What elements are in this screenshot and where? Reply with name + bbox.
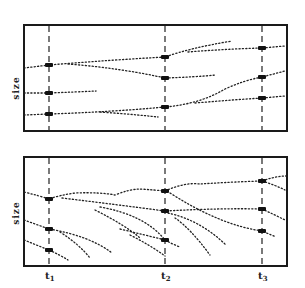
top-panel-frame: [24, 25, 287, 131]
top-trajectory: [195, 96, 285, 103]
bottom-ylabel: size: [11, 201, 21, 224]
bottom-trajectory: [60, 232, 90, 258]
top-marker-t3: [258, 46, 266, 50]
top-marker-t1: [45, 63, 53, 67]
bottom-marker-t3: [258, 207, 266, 211]
bottom-marker-t2: [161, 189, 169, 193]
top-trajectory: [68, 64, 216, 78]
bottom-trajectory: [175, 218, 210, 255]
bottom-marker-t3: [258, 179, 266, 183]
top-marker-t3: [258, 96, 266, 100]
bottom-marker-t1: [45, 197, 53, 201]
bottom-panel-frame: [24, 157, 287, 266]
top-marker-t2: [161, 105, 169, 109]
t3-label: t3: [258, 270, 268, 283]
top-trajectory: [24, 91, 96, 93]
top-ylabel: size: [11, 76, 21, 99]
t1-label: t1: [45, 270, 55, 283]
top-marker-t2: [161, 76, 169, 80]
top-marker-t1: [45, 112, 53, 116]
time-axis-labels: t1 t2 t3: [45, 270, 268, 283]
top-marker-t2: [161, 55, 169, 59]
top-trajectory: [100, 112, 158, 117]
bottom-trajectory: [120, 229, 165, 240]
bottom-trajectory: [62, 198, 285, 220]
bottom-marker-t1: [45, 227, 53, 231]
bottom-trajectory: [95, 210, 140, 238]
top-trajectory: [24, 41, 232, 68]
bottom-marker-t2: [161, 238, 169, 242]
bottom-marker-t2: [161, 209, 169, 213]
top-marker-t1: [45, 91, 53, 95]
t2-label: t2: [161, 270, 171, 283]
top-panel: size: [11, 25, 287, 131]
bottom-marker-t3: [258, 229, 266, 233]
bottom-marker-t1: [45, 248, 53, 252]
bottom-trajectory: [168, 213, 226, 245]
diagram-canvas: size size t1 t2: [0, 0, 305, 288]
bottom-trajectory: [24, 220, 112, 253]
bottom-panel: size: [11, 157, 287, 266]
top-marker-t3: [258, 75, 266, 79]
